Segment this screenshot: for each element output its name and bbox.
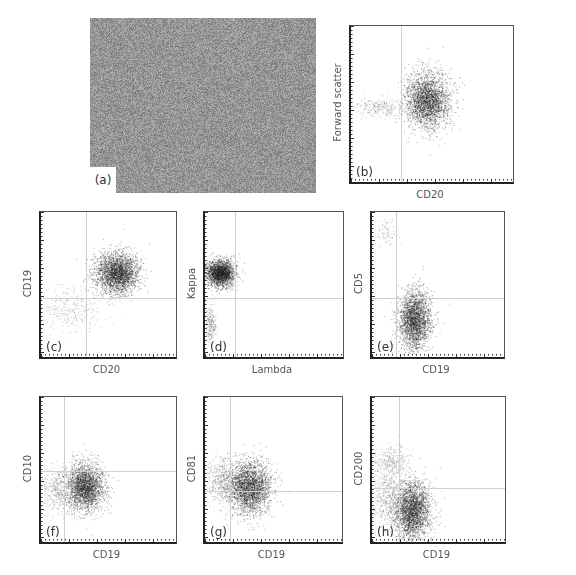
scatter-points-f	[41, 397, 176, 542]
quadrant-gate-horizontal	[41, 298, 176, 299]
plot-area-c: (c)	[39, 211, 177, 359]
plot-area-g: (g)	[203, 396, 343, 544]
quadrant-gate-horizontal	[205, 298, 343, 299]
y-axis-label: CD5	[353, 211, 364, 356]
x-axis-label: CD19	[370, 549, 503, 560]
quadrant-gate-horizontal	[205, 491, 342, 492]
quadrant-gate-vertical	[230, 397, 231, 542]
quadrant-gate-horizontal	[372, 488, 505, 489]
quadrant-gate-horizontal	[41, 471, 176, 472]
quadrant-gate-vertical	[64, 397, 65, 542]
micrograph-panel-a: (a)	[90, 18, 316, 193]
panel-label-h: (h)	[377, 525, 394, 539]
panel-label-f: (f)	[46, 525, 60, 539]
y-axis-label: CD10	[22, 396, 33, 541]
scatter-points-h	[372, 397, 505, 542]
x-axis-label: CD20	[39, 364, 174, 375]
x-axis-label: Lambda	[203, 364, 341, 375]
y-axis-label: CD81	[186, 396, 197, 541]
panel-label-e: (e)	[377, 340, 394, 354]
y-axis-label: CD19	[22, 211, 33, 356]
panel-label-g: (g)	[210, 525, 227, 539]
quadrant-gate-vertical	[235, 212, 236, 357]
quadrant-gate-vertical	[86, 212, 87, 357]
scatter-points-e	[372, 212, 504, 357]
quadrant-gate-vertical	[396, 212, 397, 357]
plot-area-b: (b)	[349, 25, 514, 184]
plot-area-h: (h)	[370, 396, 506, 544]
quadrant-gate-vertical	[401, 26, 402, 182]
micrograph-image	[90, 18, 316, 193]
plot-area-d: (d)	[203, 211, 344, 359]
panel-label-a: (a)	[90, 167, 116, 193]
x-axis-label: CD20	[349, 189, 511, 200]
scatter-points-d	[205, 212, 343, 357]
y-axis-label: Kappa	[186, 211, 197, 356]
scatter-points-g	[205, 397, 342, 542]
quadrant-gate-horizontal	[372, 298, 504, 299]
quadrant-gate-vertical	[399, 397, 400, 542]
y-axis-label: CD200	[353, 396, 364, 541]
panel-label-c: (c)	[46, 340, 62, 354]
scatter-points-b	[351, 26, 513, 182]
x-axis-label: CD19	[203, 549, 340, 560]
y-axis-label: Forward scatter	[332, 25, 343, 181]
x-axis-label: CD19	[39, 549, 174, 560]
x-axis-label: CD19	[370, 364, 502, 375]
scatter-points-c	[41, 212, 176, 357]
plot-area-f: (f)	[39, 396, 177, 544]
plot-area-e: (e)	[370, 211, 505, 359]
panel-label-d: (d)	[210, 340, 227, 354]
panel-label-b: (b)	[356, 165, 373, 179]
